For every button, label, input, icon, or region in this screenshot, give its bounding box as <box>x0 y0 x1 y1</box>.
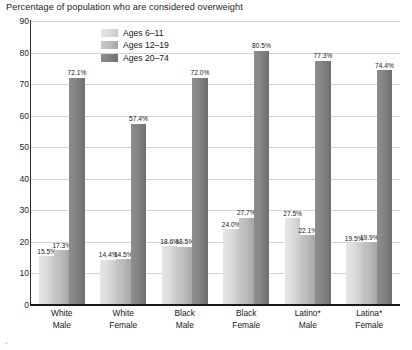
bar[interactable]: 22.1% <box>300 235 315 305</box>
bar-column: 24.0% <box>223 21 238 305</box>
category-label-line1: Latino* <box>277 308 339 320</box>
y-tick-50: 50 <box>3 142 29 152</box>
bar[interactable]: 14.4% <box>100 260 115 305</box>
y-tick-20: 20 <box>3 237 29 247</box>
footnote-text: * <box>5 341 335 350</box>
legend-label: Ages 12–19 <box>123 40 169 50</box>
legend-swatch-icon <box>101 41 118 49</box>
bar-value-label: 24.0% <box>222 222 241 229</box>
bar-group-bars: 18.6%18.5%72.0% <box>154 21 216 305</box>
category-label-line2: Male <box>154 320 216 332</box>
bar[interactable]: 27.7% <box>239 218 254 305</box>
bar[interactable]: 74.4% <box>377 70 392 305</box>
legend-item[interactable]: Ages 6–11 <box>101 27 169 39</box>
bar-group-bars: 15.5%17.3%72.1% <box>31 21 93 305</box>
category-label: BlackMale <box>154 308 216 331</box>
y-tick-30: 30 <box>3 205 29 215</box>
bar-value-label: 74.4% <box>375 63 394 70</box>
bar-value-label: 77.3% <box>314 53 333 60</box>
bar-group: 19.5%19.9%74.4% <box>339 21 401 305</box>
bar-value-label: 18.5% <box>175 239 194 246</box>
y-tick-90: 90 <box>3 16 29 26</box>
bar-value-label: 27.7% <box>237 210 256 217</box>
y-tick-10: 10 <box>3 268 29 278</box>
bar[interactable]: 24.0% <box>223 229 238 305</box>
category-label: Latina*Female <box>339 308 401 331</box>
bar-group-bars: 27.5%22.1%77.3% <box>277 21 339 305</box>
legend-swatch-icon <box>101 29 118 37</box>
category-label: BlackFemale <box>216 308 278 331</box>
bar-value-label: 27.5% <box>283 211 302 218</box>
bar[interactable]: 14.5% <box>116 259 131 305</box>
bar[interactable]: 19.5% <box>346 243 361 305</box>
bar[interactable]: 18.6% <box>162 246 177 305</box>
bar[interactable]: 77.3% <box>315 61 330 305</box>
legend-item[interactable]: Ages 12–19 <box>101 40 169 52</box>
bar-column: 74.4% <box>377 21 392 305</box>
bar-group: 15.5%17.3%72.1% <box>31 21 93 305</box>
category-label-line1: White <box>31 308 93 320</box>
bar-group-bars: 14.4%14.5%57.4% <box>93 21 155 305</box>
legend-item[interactable]: Ages 20–74 <box>101 52 169 64</box>
bar-column: 57.4% <box>131 21 146 305</box>
bar[interactable]: 80.5% <box>254 51 269 305</box>
bar[interactable]: 15.5% <box>39 256 54 305</box>
y-tick-80: 80 <box>3 48 29 58</box>
bar-group-bars: 19.5%19.9%74.4% <box>339 21 401 305</box>
y-tick-40: 40 <box>3 174 29 184</box>
bar-value-label: 19.9% <box>360 235 379 242</box>
category-label-line1: Black <box>154 308 216 320</box>
bar-value-label: 14.5% <box>114 252 133 259</box>
chart-title: Percentage of population who are conside… <box>6 2 243 12</box>
y-tick-0: 0 <box>3 300 29 310</box>
bar-group: 24.0%27.7%80.5% <box>216 21 278 305</box>
bar[interactable]: 72.0% <box>192 78 207 305</box>
bar-group: 14.4%14.5%57.4% <box>93 21 155 305</box>
bar-column: 22.1% <box>300 21 315 305</box>
bar-column: 14.5% <box>116 21 131 305</box>
y-tick-70: 70 <box>3 79 29 89</box>
bar-column: 18.5% <box>177 21 192 305</box>
bar[interactable]: 57.4% <box>131 124 146 305</box>
bar-value-label: 72.0% <box>191 70 210 77</box>
category-label: Latino*Male <box>277 308 339 331</box>
bar-column: 27.5% <box>285 21 300 305</box>
plot-area: 15.5%17.3%72.1%14.4%14.5%57.4%18.6%18.5%… <box>31 21 400 305</box>
category-label-line2: Female <box>93 320 155 332</box>
bar-column: 14.4% <box>100 21 115 305</box>
bar-value-label: 80.5% <box>252 43 271 50</box>
bar-column: 77.3% <box>315 21 330 305</box>
bar[interactable]: 17.3% <box>54 250 69 305</box>
bar-value-label: 15.5% <box>37 249 56 256</box>
x-axis-line <box>30 304 400 306</box>
bar-column: 19.5% <box>346 21 361 305</box>
chart-container: Percentage of population who are conside… <box>0 0 412 350</box>
bar-groups: 15.5%17.3%72.1%14.4%14.5%57.4%18.6%18.5%… <box>31 21 400 305</box>
bar[interactable]: 19.9% <box>362 242 377 305</box>
bar-value-label: 17.3% <box>52 243 71 250</box>
category-label: WhiteMale <box>31 308 93 331</box>
bar-column: 72.1% <box>69 21 84 305</box>
bar-column: 17.3% <box>54 21 69 305</box>
category-label-line2: Male <box>277 320 339 332</box>
legend-swatch-icon <box>101 54 118 62</box>
category-label: WhiteFemale <box>93 308 155 331</box>
bar-column: 72.0% <box>192 21 207 305</box>
category-label-line1: White <box>93 308 155 320</box>
bar-column: 18.6% <box>162 21 177 305</box>
bar-column: 27.7% <box>239 21 254 305</box>
bar-value-label: 57.4% <box>129 116 148 123</box>
chart-legend: Ages 6–11Ages 12–19Ages 20–74 <box>101 27 169 64</box>
bar-group: 27.5%22.1%77.3% <box>277 21 339 305</box>
category-label-line2: Male <box>31 320 93 332</box>
bar-column: 80.5% <box>254 21 269 305</box>
category-label-line2: Female <box>339 320 401 332</box>
bar-group-bars: 24.0%27.7%80.5% <box>216 21 278 305</box>
category-label-line1: Black <box>216 308 278 320</box>
bar-value-label: 22.1% <box>298 228 317 235</box>
bar[interactable]: 18.5% <box>177 247 192 305</box>
category-label-line2: Female <box>216 320 278 332</box>
x-axis-category-labels: WhiteMaleWhiteFemaleBlackMaleBlackFemale… <box>31 308 400 342</box>
bar[interactable]: 72.1% <box>69 78 84 306</box>
bar-group: 18.6%18.5%72.0% <box>154 21 216 305</box>
